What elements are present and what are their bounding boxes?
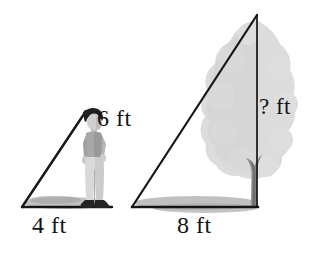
tree-height-label: ? ft <box>259 95 291 118</box>
tree-shadow-base-label: 8 ft <box>177 213 212 237</box>
person-height-label: 6 ft <box>97 106 132 130</box>
person-shadow-base-label: 4 ft <box>32 213 67 237</box>
tree-ground-shadow <box>134 196 258 213</box>
shadow-similar-triangles-figure: 6 ft 4 ft ? ft 8 ft <box>0 0 321 257</box>
